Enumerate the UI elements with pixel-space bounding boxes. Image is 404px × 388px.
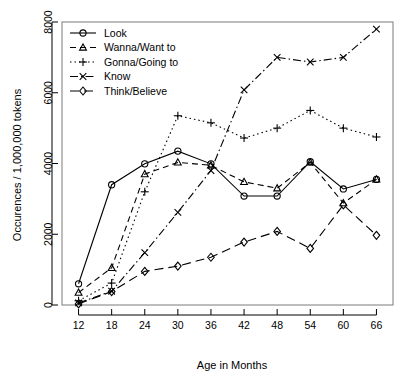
- x-tick-label: 12: [73, 319, 85, 331]
- x-tick-label: 48: [271, 319, 283, 331]
- x-tick-label: 30: [172, 319, 184, 331]
- legend-label: Gonna/Going to: [104, 56, 178, 68]
- x-tick-label: 24: [139, 319, 151, 331]
- x-tick-label: 36: [205, 319, 217, 331]
- y-tick-label: 4000: [42, 152, 54, 176]
- x-tick-label: 60: [338, 319, 350, 331]
- chart-container: 02000400060008000 12182430364248546066 L…: [0, 0, 404, 388]
- x-tick-label: 42: [238, 319, 250, 331]
- y-tick-label: 2000: [42, 222, 54, 246]
- x-tick-label: 66: [371, 319, 383, 331]
- line-chart: 02000400060008000 12182430364248546066 L…: [0, 0, 404, 388]
- x-tick-label: 18: [106, 319, 118, 331]
- legend-label: Look: [104, 27, 128, 39]
- y-tick-label: 0: [42, 302, 54, 308]
- x-tick-label: 54: [304, 319, 316, 331]
- x-axis-title: Age in Months: [197, 359, 268, 371]
- legend-label: Wanna/Want to: [104, 41, 176, 53]
- legend-label: Think/Believe: [104, 85, 167, 97]
- y-axis-title: Occurences / 1,000,000 tokens: [11, 88, 23, 241]
- y-tick-label: 6000: [42, 81, 54, 105]
- legend-label: Know: [104, 70, 131, 82]
- y-tick-label: 8000: [42, 10, 54, 34]
